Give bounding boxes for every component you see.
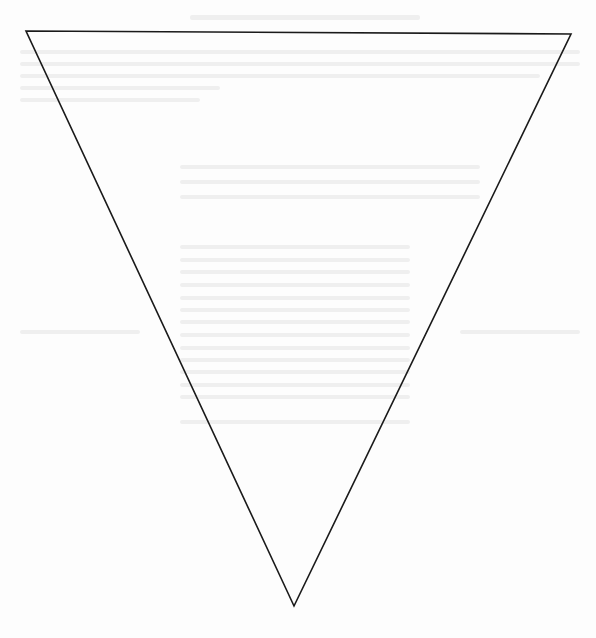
- triangle-outline: [26, 31, 571, 606]
- inverted-triangle: [0, 0, 596, 638]
- page: [0, 0, 596, 638]
